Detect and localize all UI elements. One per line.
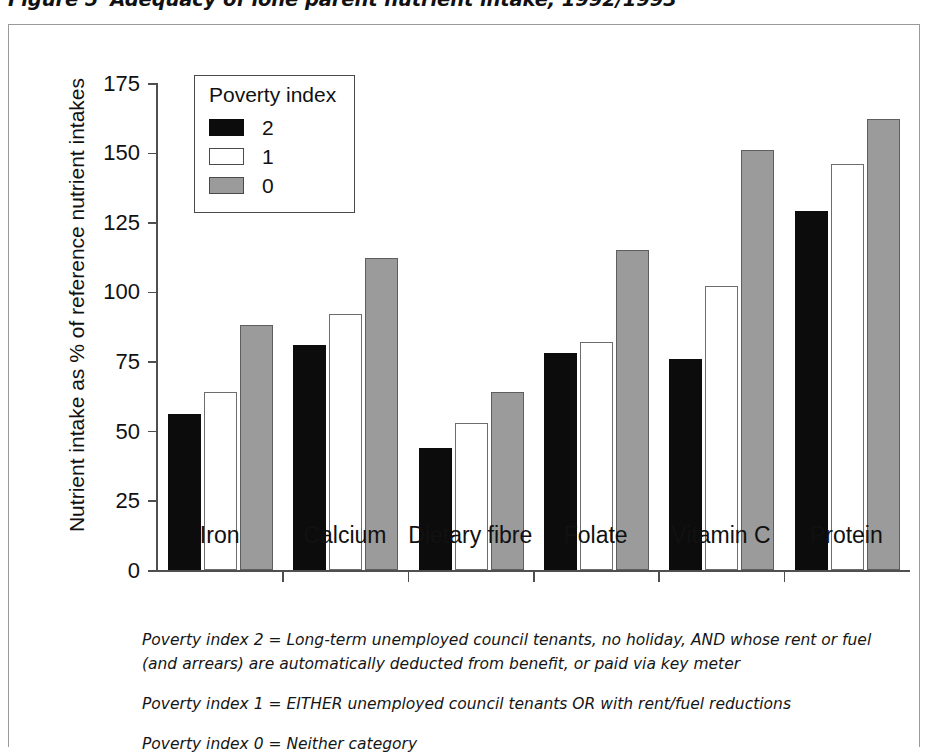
x-axis-label: Dietary fibre — [408, 522, 533, 549]
y-axis-tick: 125 — [148, 222, 157, 224]
legend-label: 1 — [262, 145, 274, 169]
y-axis-tick: 75 — [148, 361, 157, 363]
legend-label: 2 — [262, 116, 274, 140]
x-axis-label: Protein — [784, 522, 909, 549]
chart-area: Nutrient intake as % of reference nutrie… — [9, 25, 928, 625]
x-axis-tick — [282, 570, 284, 582]
y-axis-tick-label: 75 — [116, 349, 140, 375]
y-axis-tick-label: 125 — [103, 210, 140, 236]
bar-group — [784, 83, 909, 570]
y-axis-tick-label: 175 — [103, 71, 140, 97]
y-axis-tick: 150 — [148, 153, 157, 155]
legend-entry: 1 — [209, 142, 354, 171]
y-axis-tick: 0 — [148, 570, 157, 572]
x-axis-tick — [408, 570, 410, 582]
legend-swatch — [209, 119, 244, 136]
bar — [741, 150, 774, 570]
x-axis-label: Folate — [533, 522, 658, 549]
figure-caption: Figure 5Adequacy of lone parent nutrient… — [8, 0, 908, 18]
figure-number: Figure 5 — [8, 0, 98, 11]
bar — [795, 211, 828, 570]
footnote: Poverty index 0 = Neither category — [142, 732, 902, 756]
x-axis-label: Iron — [157, 522, 282, 549]
y-axis-tick-label: 50 — [116, 419, 140, 445]
legend-entry: 2 — [209, 113, 354, 142]
bar — [831, 164, 864, 570]
legend: Poverty index 210 — [194, 75, 355, 213]
y-axis-tick-label: 100 — [103, 279, 140, 305]
legend-entries: 210 — [209, 113, 354, 200]
y-axis-tick-label: 0 — [128, 558, 140, 584]
bar-group — [658, 83, 783, 570]
y-axis-tick: 100 — [148, 292, 157, 294]
y-axis-title: Nutrient intake as % of reference nutrie… — [65, 45, 89, 565]
footnote: Poverty index 1 = EITHER unemployed coun… — [142, 692, 902, 716]
x-axis-tick — [533, 570, 535, 582]
legend-entry: 0 — [209, 171, 354, 200]
bar-group — [408, 83, 533, 570]
bar — [867, 119, 900, 570]
legend-title: Poverty index — [209, 83, 354, 107]
footnotes: Poverty index 2 = Long-term unemployed c… — [142, 628, 902, 756]
legend-swatch — [209, 148, 244, 165]
footnote: Poverty index 2 = Long-term unemployed c… — [142, 628, 902, 676]
y-axis-tick-label: 150 — [103, 140, 140, 166]
legend-swatch — [209, 177, 244, 194]
x-axis-label: Vitamin C — [658, 522, 783, 549]
legend-label: 0 — [262, 174, 274, 198]
y-axis-tick: 50 — [148, 431, 157, 433]
bar-group — [533, 83, 658, 570]
y-axis-tick: 25 — [148, 500, 157, 502]
x-axis-tick — [658, 570, 660, 582]
x-axis-label: Calcium — [282, 522, 407, 549]
y-axis-tick-label: 25 — [116, 488, 140, 514]
bar — [419, 448, 452, 570]
figure-frame: Nutrient intake as % of reference nutrie… — [8, 24, 920, 747]
y-axis-tick: 175 — [148, 83, 157, 85]
x-axis-tick — [784, 570, 786, 582]
figure-title: Adequacy of lone parent nutrient intake,… — [110, 0, 676, 11]
